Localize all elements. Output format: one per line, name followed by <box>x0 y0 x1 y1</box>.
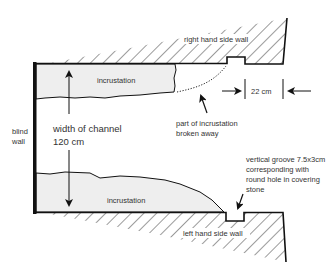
incrustation-bottom-label: incrustation <box>107 196 145 205</box>
incrustation-bottom-shape <box>36 172 224 212</box>
width-label-2: 120 cm <box>53 136 84 148</box>
broken-away-dotted-line <box>177 66 226 92</box>
groove-note-4: stone <box>246 185 264 194</box>
width-label-1: width of channel <box>53 123 122 135</box>
blind-wall <box>33 62 37 214</box>
broken-away-label-2: broken away <box>176 129 219 138</box>
right-wall-hatching <box>50 18 287 64</box>
groove-note-2: corresponding with <box>246 165 309 174</box>
right-wall-label: right hand side wall <box>184 35 248 44</box>
broken-away-arrow <box>201 96 207 113</box>
groove-width-label: 22 cm <box>251 87 271 96</box>
incrustation-top-label: incrustation <box>97 76 135 85</box>
left-wall-label: left hand side wall <box>183 229 243 238</box>
blind-wall-label-1: blind <box>12 127 28 136</box>
channel-diagram <box>0 0 336 275</box>
groove-note-1: vertical groove 7.5x3cm <box>246 155 325 164</box>
groove-arrow <box>238 194 243 208</box>
blind-wall-label-2: wall <box>12 137 25 146</box>
groove-note-3: round hole in covering <box>246 175 320 184</box>
broken-away-label-1: part of incrustation <box>176 119 238 128</box>
